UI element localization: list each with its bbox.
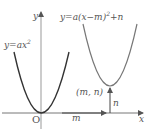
parabola-translation-diagram: y x O y=ax2 y=a(x−m)2+n (m, n) n m [0, 0, 157, 134]
shifted-parabola-label: y=a(x−m)2+n [59, 10, 124, 22]
base-parabola-label: y=ax2 [3, 38, 31, 50]
x-axis-label: x [139, 114, 144, 124]
y-axis-label: y [32, 11, 39, 21]
origin-label: O [32, 114, 40, 125]
shifted-parabola-curve [83, 24, 137, 86]
vertical-shift-label: n [113, 98, 119, 108]
horizontal-shift-label: m [72, 113, 81, 123]
vertex-label: (m, n) [76, 87, 104, 97]
